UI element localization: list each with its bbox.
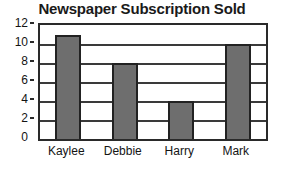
y-axis: 024681012 bbox=[0, 23, 34, 141]
bar bbox=[225, 44, 251, 139]
y-tick-label: 12 bbox=[15, 16, 28, 30]
x-tick-label: Kaylee bbox=[48, 144, 85, 158]
y-tick-label: 2 bbox=[21, 111, 28, 125]
y-tick-label: 10 bbox=[15, 35, 28, 49]
x-tick-label: Harry bbox=[165, 144, 194, 158]
y-tick-mark bbox=[30, 41, 34, 43]
plot-area bbox=[38, 23, 268, 141]
bar-chart-figure: Newspaper Subscription Sold 024681012 Ka… bbox=[0, 0, 284, 175]
x-tick-label: Mark bbox=[222, 144, 249, 158]
y-tick-label: 4 bbox=[21, 92, 28, 106]
x-axis: KayleeDebbieHarryMark bbox=[38, 144, 268, 164]
y-tick-mark bbox=[30, 22, 34, 24]
y-tick-label: 8 bbox=[21, 54, 28, 68]
y-tick-label: 6 bbox=[21, 73, 28, 87]
bar bbox=[168, 101, 194, 139]
y-tick-mark bbox=[30, 117, 34, 119]
bars-group bbox=[40, 25, 266, 139]
bar bbox=[112, 63, 138, 139]
y-tick-mark bbox=[30, 79, 34, 81]
y-tick-label: 0 bbox=[21, 130, 28, 144]
y-tick-mark bbox=[30, 60, 34, 62]
chart-title: Newspaper Subscription Sold bbox=[0, 0, 284, 17]
y-tick-mark bbox=[30, 98, 34, 100]
bar bbox=[55, 35, 81, 140]
x-tick-label: Debbie bbox=[104, 144, 142, 158]
